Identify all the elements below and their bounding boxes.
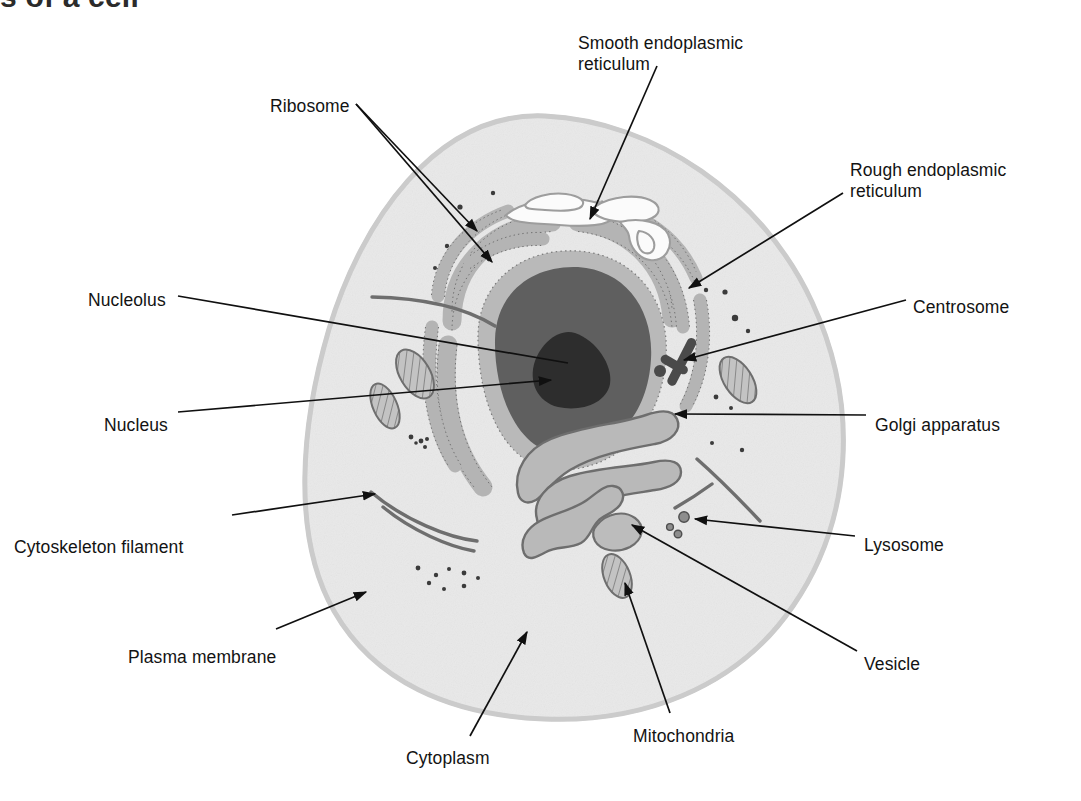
label-vesicle: Vesicle [864, 654, 920, 675]
leader-golgi [675, 414, 866, 415]
label-rough-er-line1: Rough endoplasmic [850, 160, 1006, 181]
label-centrosome: Centrosome [913, 297, 1009, 318]
figure-title-clip: s of a cell [0, 0, 1081, 30]
cell-illustration [0, 0, 1081, 801]
lysosome-small-a [667, 524, 674, 531]
label-smooth-er-line2: reticulum [578, 54, 650, 75]
figure-title: s of a cell [0, 0, 139, 14]
label-lysosome: Lysosome [864, 535, 944, 556]
label-cytoplasm: Cytoplasm [406, 748, 490, 769]
label-smooth-er-line1: Smooth endoplasmic [578, 33, 743, 54]
centriole-dot [654, 365, 666, 377]
label-ribosome: Ribosome [270, 96, 350, 117]
label-nucleus: Nucleus [104, 415, 168, 436]
label-rough-er-line2: reticulum [850, 181, 922, 202]
label-golgi-apparatus: Golgi apparatus [875, 415, 1000, 436]
lysosome-body [679, 512, 689, 522]
lysosome-small-b [674, 530, 682, 538]
cell-diagram-figure: s of a cell Ribosome Smooth endoplasmic … [0, 0, 1081, 801]
label-mitochondria: Mitochondria [633, 726, 734, 747]
label-cytoskeleton-filament: Cytoskeleton filament [14, 537, 183, 558]
label-plasma-membrane: Plasma membrane [128, 647, 276, 668]
label-nucleolus: Nucleolus [88, 290, 166, 311]
